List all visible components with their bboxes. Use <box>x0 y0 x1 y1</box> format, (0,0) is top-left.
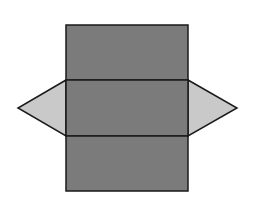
prism-net-diagram <box>0 0 255 203</box>
middle-face <box>66 80 188 136</box>
bottom-face <box>66 136 188 191</box>
top-face <box>66 25 188 80</box>
